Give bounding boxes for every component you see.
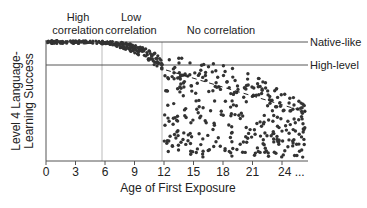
data-point — [201, 150, 204, 153]
data-point — [147, 58, 150, 61]
data-point — [245, 126, 248, 129]
data-point — [190, 135, 193, 138]
data-point — [275, 138, 278, 141]
region-label-low-2: correlation — [105, 24, 156, 36]
data-point — [183, 80, 186, 83]
data-point — [300, 115, 303, 118]
data-point — [242, 140, 245, 143]
data-point — [253, 133, 256, 136]
data-point — [239, 143, 242, 146]
data-point — [276, 96, 279, 99]
data-point — [214, 81, 217, 84]
data-point — [160, 67, 163, 70]
data-point — [263, 114, 266, 117]
data-point — [189, 121, 192, 124]
data-point — [222, 74, 225, 77]
data-point — [260, 87, 263, 90]
data-point — [199, 143, 202, 146]
data-point — [233, 79, 236, 82]
data-point — [272, 137, 275, 140]
scatter-points — [46, 39, 307, 159]
data-point — [175, 130, 178, 133]
data-point — [300, 148, 303, 151]
data-point — [275, 135, 278, 138]
data-point — [171, 123, 174, 126]
data-point — [219, 145, 222, 148]
data-point — [137, 51, 140, 54]
region-label-high-1: High — [67, 11, 90, 23]
data-point — [255, 122, 258, 125]
data-point — [211, 89, 214, 92]
data-point — [186, 139, 189, 142]
data-point — [300, 135, 303, 138]
data-point — [91, 42, 94, 45]
x-tick-label: 24 ... — [278, 165, 305, 179]
data-point — [191, 118, 194, 121]
data-point — [172, 117, 175, 120]
data-point — [230, 112, 233, 115]
data-point — [237, 114, 240, 117]
data-point — [242, 96, 245, 99]
data-point — [267, 118, 270, 121]
data-point — [195, 108, 198, 111]
data-point — [258, 151, 261, 154]
region-label-high-2: correlation — [52, 24, 103, 36]
data-point — [283, 149, 286, 152]
data-point — [287, 138, 290, 141]
data-point — [189, 150, 192, 153]
data-point — [262, 138, 265, 141]
data-point — [266, 104, 269, 107]
data-point — [284, 124, 287, 127]
data-point — [183, 108, 186, 111]
data-point — [166, 116, 169, 119]
region-label-low-1: Low — [121, 11, 141, 23]
data-point — [211, 128, 214, 131]
data-point — [199, 69, 202, 72]
y-axis-title-line2: Learning Success — [22, 53, 36, 148]
data-point — [256, 82, 259, 85]
data-point — [232, 103, 235, 106]
data-point — [294, 129, 297, 132]
data-point — [291, 141, 294, 144]
data-point — [144, 54, 147, 57]
data-point — [167, 150, 170, 153]
data-point — [301, 155, 304, 158]
data-point — [190, 89, 193, 92]
data-point — [159, 59, 162, 62]
y-axis-title: Level 4 Language- Learning Success — [9, 51, 36, 150]
x-tick-label: 15 — [187, 165, 201, 179]
data-point — [222, 64, 225, 67]
data-point — [207, 90, 210, 93]
data-point — [201, 155, 204, 158]
data-point — [175, 119, 178, 122]
data-point — [247, 132, 250, 135]
data-point — [303, 143, 306, 146]
region-labels: High correlation Low correlation No corr… — [52, 11, 255, 36]
data-point — [132, 49, 135, 52]
data-point — [263, 131, 266, 134]
data-point — [119, 43, 122, 46]
data-point — [188, 61, 191, 64]
data-point — [189, 84, 192, 87]
data-point — [280, 129, 283, 132]
data-point — [259, 134, 262, 137]
data-point — [163, 139, 166, 142]
data-point — [286, 145, 289, 148]
data-point — [124, 42, 127, 45]
x-ticks: 03691215182124 ... — [43, 161, 305, 179]
data-point — [229, 136, 232, 139]
data-point — [212, 62, 215, 65]
x-tick-label: 12 — [157, 165, 171, 179]
data-point — [268, 95, 271, 98]
data-point — [206, 134, 209, 137]
data-point — [261, 142, 264, 145]
data-point — [167, 77, 170, 80]
data-point — [202, 63, 205, 66]
data-point — [197, 99, 200, 102]
data-point — [196, 147, 199, 150]
data-point — [287, 101, 290, 104]
data-point — [154, 57, 157, 60]
data-point — [235, 104, 238, 107]
y-axis-title-line1: Level 4 Language- — [9, 51, 23, 150]
data-point — [282, 153, 285, 156]
